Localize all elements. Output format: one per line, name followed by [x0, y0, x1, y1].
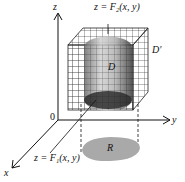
box-label: D′	[152, 45, 161, 55]
z-axis-label: z	[53, 2, 57, 12]
solid-label: D	[108, 62, 115, 72]
solid-d	[68, 36, 133, 111]
bottom-surface-label: z = F₁(x, y)	[34, 153, 80, 163]
y-axis	[58, 116, 170, 124]
z-axis	[54, 13, 62, 120]
x-axis-label: x	[4, 168, 8, 178]
top-surface-label: z = F₂(x, y)	[94, 2, 140, 12]
projection-label: R	[107, 143, 113, 153]
y-axis-label: y	[172, 115, 176, 125]
diagram-canvas	[0, 0, 185, 182]
origin-label: 0	[50, 112, 55, 122]
